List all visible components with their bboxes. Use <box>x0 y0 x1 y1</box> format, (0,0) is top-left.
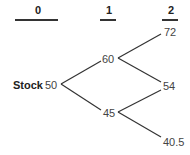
node-root: 50 <box>45 79 57 91</box>
node-up: 60 <box>102 53 114 65</box>
node-down-down: 40.5 <box>163 136 184 148</box>
branch-up-up <box>118 34 161 58</box>
node-up-down: 54 <box>163 80 175 92</box>
node-down: 45 <box>103 107 115 119</box>
branch-root-up <box>61 61 101 84</box>
branch-down-down <box>118 112 161 137</box>
tree-branches <box>0 0 190 155</box>
node-up-up: 72 <box>164 26 176 38</box>
root-label: Stock <box>13 79 43 91</box>
branch-root-down <box>61 84 101 110</box>
branch-down-up <box>118 90 161 112</box>
branch-up-down <box>118 58 161 82</box>
